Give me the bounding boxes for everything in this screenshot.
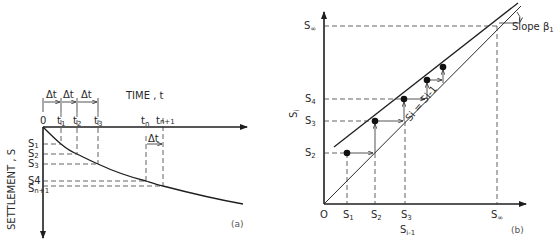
point-4 — [424, 77, 431, 84]
tick-y-s-inf: S∞ — [304, 20, 316, 33]
tick-y-s3: S3 — [305, 115, 316, 128]
point-1 — [344, 150, 351, 157]
y-tick-labels: S∞ S4 S3 S2 — [304, 20, 316, 160]
fitted-line — [334, 3, 518, 147]
point-3 — [401, 96, 408, 103]
x-tick-labels: O S1 S2 S3 S∞ — [320, 209, 503, 222]
delta-t-label-3: Δt — [81, 89, 92, 100]
tick-y-s4: S4 — [305, 93, 316, 106]
settlement-axis-label: SETTLEMENT , S — [6, 149, 17, 230]
data-points — [344, 64, 447, 157]
settlement-dashed-guides — [43, 144, 163, 186]
time-tick-labels: t1 t2 t3 tn tn+1 — [57, 115, 175, 128]
origin-label-a: 0 — [40, 115, 46, 126]
tick-tn-plus-1: tn+1 — [156, 115, 175, 126]
caption-a: (a) — [231, 219, 244, 229]
tick-x-s-inf: S∞ — [491, 209, 503, 222]
settlement-curve — [43, 127, 243, 204]
x-axis-title: Si-1 — [400, 224, 415, 237]
delta-t-label-n: Δt — [148, 133, 159, 144]
figure-b: Slope β1 Si = Si-1 S∞ S4 S3 S2 O S1 S2 S… — [288, 3, 554, 237]
tick-y-s2: S2 — [305, 147, 316, 160]
delta-t-label-2: Δt — [63, 89, 74, 100]
settlement-tick-labels: S1 S2 S3 S4 Sn+1 — [28, 138, 49, 195]
point-2 — [372, 118, 379, 125]
slope-label: Slope β1 — [512, 21, 554, 34]
tick-x-s3: S3 — [401, 209, 412, 222]
time-axis-label: TIME , t — [125, 90, 164, 101]
y-axis-title: Si — [288, 110, 301, 118]
delta-t-label-1: Δt — [46, 89, 57, 100]
caption-b: (b) — [511, 225, 524, 235]
tick-tn: tn — [141, 115, 149, 128]
point-5 — [440, 64, 447, 71]
origin-label-b: O — [320, 209, 328, 220]
tick-x-s2: S2 — [371, 209, 382, 222]
settlement-figure: Δt Δt Δt Δt TIME , t 0 SETTLEMENT , S t1… — [0, 0, 554, 246]
figure-a: Δt Δt Δt Δt TIME , t 0 SETTLEMENT , S t1… — [6, 89, 247, 238]
tick-x-s1: S1 — [343, 209, 354, 222]
slope-annotation: Slope β1 — [499, 12, 554, 34]
